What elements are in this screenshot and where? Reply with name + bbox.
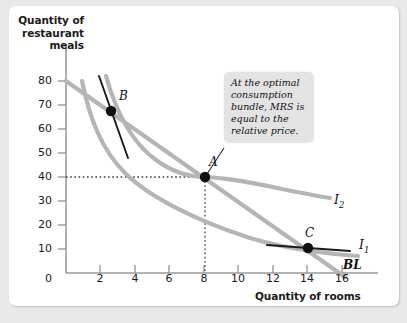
data-point-b bbox=[106, 106, 116, 116]
y-tick-label-80: 80 bbox=[30, 74, 52, 87]
y-axis-title: Quantity of restaurant meals bbox=[6, 14, 84, 52]
y-tick-label-70: 70 bbox=[30, 98, 52, 111]
point-label-a: A bbox=[209, 155, 218, 169]
x-tick-label-6: 6 bbox=[159, 272, 179, 285]
x-axis-title: Quantity of rooms bbox=[255, 290, 361, 303]
y-tick-label-0: 0 bbox=[30, 272, 52, 285]
curve-label-bl: BL bbox=[343, 258, 362, 272]
x-tick-label-14: 14 bbox=[297, 272, 317, 285]
data-point-c bbox=[303, 243, 313, 253]
y-tick-label-20: 20 bbox=[30, 218, 52, 231]
x-tick-label-8: 8 bbox=[194, 272, 214, 285]
y-tick-label-40: 40 bbox=[30, 170, 52, 183]
y-tick-label-10: 10 bbox=[30, 242, 52, 255]
x-tick-label-10: 10 bbox=[228, 272, 248, 285]
optimal-bundle-callout: At the optimal consumption bundle, MRS i… bbox=[224, 72, 313, 142]
x-tick-label-12: 12 bbox=[263, 272, 283, 285]
data-point-a bbox=[200, 172, 210, 182]
point-label-b: B bbox=[119, 89, 128, 103]
point-label-c: C bbox=[305, 226, 314, 240]
x-tick-label-16: 16 bbox=[332, 272, 352, 285]
curve-label-i1: I1 bbox=[359, 237, 369, 255]
y-tick-label-50: 50 bbox=[30, 146, 52, 159]
indifference-curve-i1 bbox=[82, 81, 358, 256]
x-tick-label-4: 4 bbox=[125, 272, 145, 285]
curve-label-i2: I2 bbox=[334, 192, 344, 210]
x-tick-label-2: 2 bbox=[90, 272, 110, 285]
y-tick-label-30: 30 bbox=[30, 194, 52, 207]
y-tick-marks bbox=[58, 81, 66, 249]
y-tick-label-60: 60 bbox=[30, 122, 52, 135]
